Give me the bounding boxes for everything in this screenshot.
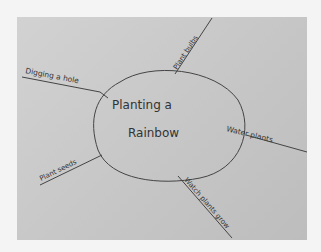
mind-map-drawing: Planting a Rainbow Plant bulbs Digging a…	[0, 0, 321, 252]
center-title-line1: Planting a	[112, 98, 172, 112]
branch-label-watch-plants-grow: Watch plants grow	[182, 176, 231, 230]
branch-label-plant-seeds: Plant seeds	[38, 158, 78, 183]
center-title-line2: Rainbow	[128, 126, 179, 140]
branch-label-water-plants: Water plants	[226, 124, 274, 144]
branch-line-digging-a-hole-2	[100, 92, 108, 98]
branch-label-plant-bulbs: Plant bulbs	[172, 34, 200, 71]
